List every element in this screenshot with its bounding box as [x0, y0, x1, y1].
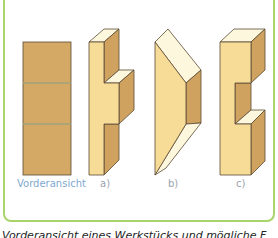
option-b-label: b) [168, 178, 178, 190]
option-c-label: c) [236, 178, 245, 190]
option-a-label: a) [100, 178, 110, 190]
figure-caption: Vorderansicht eines Werkstücks und mögli… [2, 229, 266, 238]
front-view-label: Vorderansicht [17, 178, 86, 190]
option-b-drawing [155, 29, 201, 175]
option-c-drawing [220, 29, 265, 175]
option-a-drawing [89, 29, 134, 175]
figure-illustration [0, 0, 278, 238]
front-view-drawing [23, 42, 71, 175]
